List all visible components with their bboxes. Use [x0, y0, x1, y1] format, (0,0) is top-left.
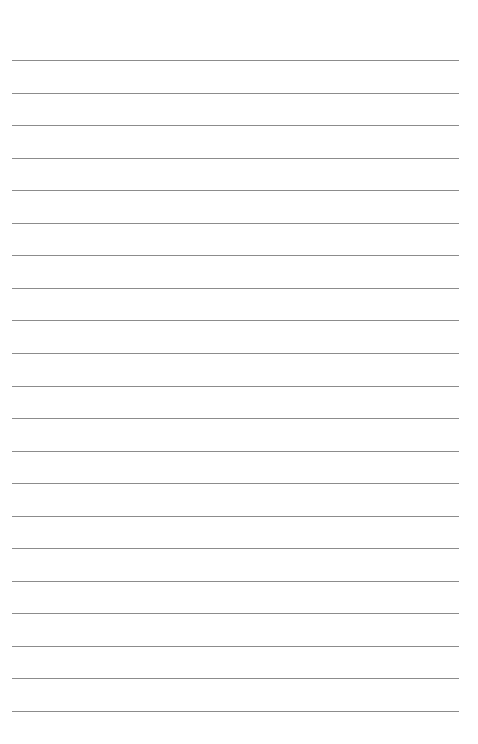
ruled-line: [12, 451, 459, 452]
ruled-line: [12, 646, 459, 647]
ruled-line: [12, 613, 459, 614]
ruled-line: [12, 516, 459, 517]
ruled-line: [12, 548, 459, 549]
ruled-line: [12, 288, 459, 289]
ruled-line: [12, 93, 459, 94]
ruled-line: [12, 223, 459, 224]
ruled-line: [12, 255, 459, 256]
ruled-line: [12, 581, 459, 582]
ruled-line: [12, 711, 459, 712]
ruled-line: [12, 60, 459, 61]
ruled-line: [12, 320, 459, 321]
ruled-line: [12, 483, 459, 484]
ruled-line: [12, 418, 459, 419]
ruled-line: [12, 353, 459, 354]
ruled-line: [12, 158, 459, 159]
ruled-line: [12, 386, 459, 387]
lined-paper-page: [0, 0, 478, 744]
ruled-line: [12, 678, 459, 679]
ruled-line: [12, 125, 459, 126]
ruled-line: [12, 190, 459, 191]
